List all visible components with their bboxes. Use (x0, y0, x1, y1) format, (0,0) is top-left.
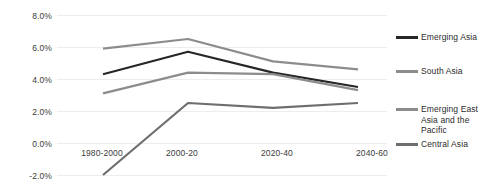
legend-item-label: South Asia (421, 66, 463, 77)
series-line (103, 52, 358, 87)
line-chart: 8.0% 6.0% 4.0% 2.0% 0.0% -2.0% 1980-2000… (0, 0, 491, 186)
y-axis-tick-label: 4.0% (6, 75, 52, 85)
legend-item-label: Emerging East Asia and the Pacific (421, 104, 491, 136)
y-axis-tick-label: 6.0% (6, 43, 52, 53)
legend-item[interactable]: Emerging East Asia and the Pacific (396, 104, 491, 136)
series-lines (57, 0, 387, 186)
legend-item[interactable]: Emerging Asia (396, 32, 491, 43)
y-axis-tick-label: -2.0% (6, 171, 52, 181)
y-axis: 8.0% 6.0% 4.0% 2.0% 0.0% -2.0% (0, 0, 52, 186)
legend-item-label: Central Asia (421, 139, 468, 150)
plot-area: 1980-2000 2000-20 2020-40 2040-60 (57, 0, 387, 186)
chart-legend: Emerging Asia South Asia Emerging East A… (396, 0, 491, 186)
legend-swatch-icon (396, 36, 418, 39)
legend-swatch-icon (396, 108, 418, 111)
series-line (103, 73, 358, 94)
legend-item[interactable]: South Asia (396, 66, 491, 77)
y-axis-tick-label: 2.0% (6, 107, 52, 117)
legend-item[interactable]: Central Asia (396, 139, 491, 150)
y-axis-tick-label: 0.0% (6, 139, 52, 149)
legend-swatch-icon (396, 70, 418, 73)
legend-item-label: Emerging Asia (421, 32, 477, 43)
legend-swatch-icon (396, 143, 418, 146)
y-axis-tick-label: 8.0% (6, 11, 52, 21)
series-line (103, 103, 358, 175)
